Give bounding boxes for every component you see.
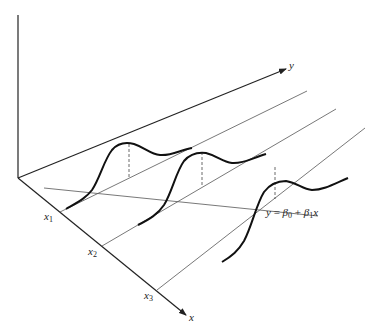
x-axis-label: x [189, 312, 194, 323]
diagram-canvas [0, 0, 380, 334]
x-axis [18, 178, 186, 315]
x1-baseline [60, 91, 307, 212]
regression-diagram: y x x1 x2 x3 y = β0 + β1x [0, 0, 380, 334]
x2-label: x2 [88, 246, 97, 259]
x1-label: x1 [44, 211, 53, 224]
regression-equation-label: y = β0 + β1x [266, 207, 318, 220]
x3-baseline [157, 128, 365, 290]
y-axis-label: y [289, 60, 294, 71]
x3-label: x3 [144, 290, 153, 303]
